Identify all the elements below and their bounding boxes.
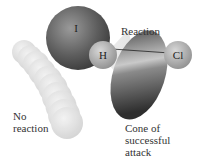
iodine-symbol: I: [74, 22, 78, 34]
no-reaction-label: No reaction: [13, 110, 48, 134]
reaction-diagram: I H Cl Reaction No reaction Cone of succ…: [0, 0, 204, 165]
hydrogen-symbol: H: [99, 49, 107, 61]
diagram-graphic: I H Cl: [0, 0, 204, 165]
cone-of-attack: [100, 23, 178, 127]
reaction-label: Reaction: [121, 25, 160, 37]
cone-label: Cone of successful attack: [125, 122, 170, 158]
chlorine-symbol: Cl: [173, 49, 183, 61]
